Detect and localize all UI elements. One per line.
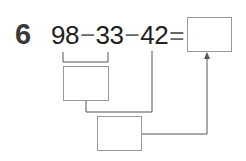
answer-box[interactable] bbox=[187, 17, 232, 52]
bracket-98-33 bbox=[63, 52, 108, 62]
connector-box2-to-answer bbox=[141, 58, 207, 134]
arrow-head-icon bbox=[204, 52, 210, 59]
intermediate-box-1[interactable] bbox=[63, 66, 109, 101]
intermediate-box-2[interactable] bbox=[97, 116, 142, 151]
